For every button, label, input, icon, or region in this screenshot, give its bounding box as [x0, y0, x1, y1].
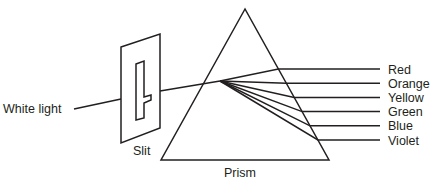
slit-opening — [136, 61, 151, 120]
label-red: Red — [388, 63, 411, 77]
slit-label: Slit — [133, 144, 151, 158]
label-green: Green — [388, 105, 423, 119]
dispersed-rays — [220, 69, 380, 140]
slit-panel — [121, 34, 160, 143]
ray-red — [220, 69, 380, 81]
ray-orange — [220, 81, 380, 83]
prism — [161, 9, 329, 160]
label-blue: Blue — [388, 119, 413, 133]
spectrum-labels: RedOrangeYellowGreenBlueViolet — [388, 63, 430, 148]
prism-dispersion-diagram: White light Slit Prism RedOrangeYellowGr… — [0, 0, 436, 184]
collimated-ray — [160, 81, 220, 91]
white-light-ray — [74, 99, 121, 109]
label-yellow: Yellow — [388, 91, 425, 105]
label-orange: Orange — [388, 77, 430, 91]
white-light-label: White light — [3, 102, 62, 116]
label-violet: Violet — [388, 134, 420, 148]
ray-blue — [220, 81, 380, 126]
prism-label: Prism — [224, 166, 256, 180]
